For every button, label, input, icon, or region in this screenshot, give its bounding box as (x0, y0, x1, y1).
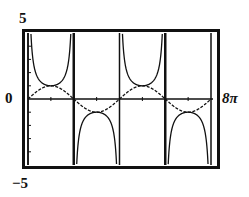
axes (28, 33, 213, 165)
graph-window (0, 0, 249, 197)
